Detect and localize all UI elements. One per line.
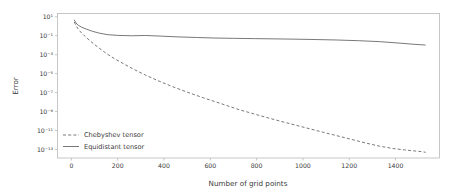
y-tick-label: 10⁻¹ xyxy=(39,32,53,39)
x-axis-title: Number of grid points xyxy=(209,179,288,188)
x-tick-label: 800 xyxy=(251,162,263,169)
legend-label-2: Equidistant tensor xyxy=(84,143,145,151)
x-tick-label: 1000 xyxy=(295,162,311,169)
y-tick-label: 10⁻⁷ xyxy=(39,89,53,96)
error-convergence-chart: 10¹10⁻¹10⁻³10⁻⁵10⁻⁷10⁻⁹10⁻¹¹10⁻¹³ 020040… xyxy=(0,0,461,190)
x-tick-label: 0 xyxy=(69,162,73,169)
y-tick-label: 10⁻¹¹ xyxy=(37,127,54,134)
y-tick-label: 10⁻¹³ xyxy=(37,146,54,153)
figure-canvas: 10¹10⁻¹10⁻³10⁻⁵10⁻⁷10⁻⁹10⁻¹¹10⁻¹³ 020040… xyxy=(0,0,461,190)
y-tick-label: 10⁻⁹ xyxy=(39,108,53,115)
y-tick-label: 10¹ xyxy=(43,13,54,20)
y-axis-title: Error xyxy=(11,77,20,95)
y-tick-label: 10⁻⁵ xyxy=(39,70,53,77)
y-tick-label: 10⁻³ xyxy=(39,51,53,58)
x-tick-label: 200 xyxy=(112,162,124,169)
x-tick-label: 400 xyxy=(158,162,170,169)
x-tick-label: 1200 xyxy=(341,162,357,169)
x-tick-label: 1400 xyxy=(388,162,404,169)
x-tick-label: 600 xyxy=(204,162,216,169)
legend-label-1: Chebyshev tensor xyxy=(84,131,144,139)
